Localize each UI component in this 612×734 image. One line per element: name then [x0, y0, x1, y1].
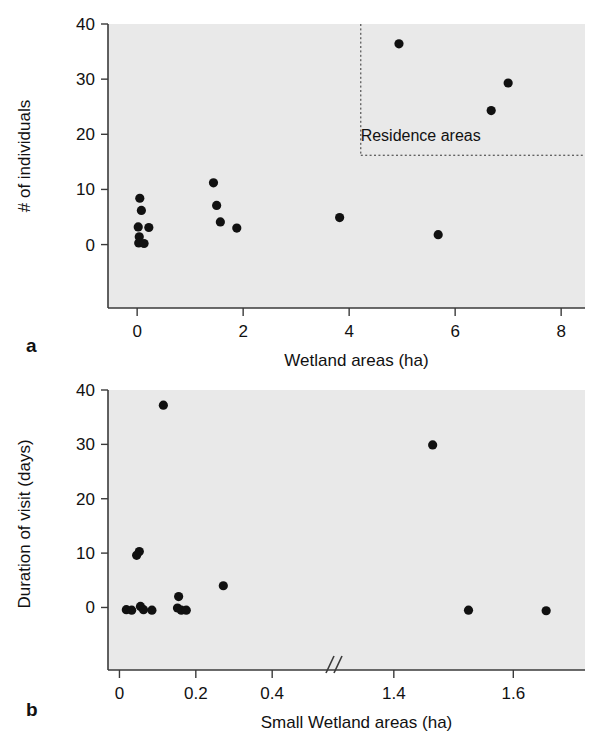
x-tick-label-b: 1.4: [382, 684, 406, 703]
data-point: [159, 401, 168, 410]
data-point: [134, 222, 143, 231]
data-point: [487, 106, 496, 115]
panel-letter-a: a: [26, 336, 37, 355]
data-point: [209, 178, 218, 187]
data-point: [132, 551, 141, 560]
data-point: [434, 230, 443, 239]
x-tick-label-b: 0: [115, 684, 124, 703]
panel-b: 01020304000.20.41.41.6Small Wetland area…: [0, 370, 612, 734]
panel-b-chart: 01020304000.20.41.41.6Small Wetland area…: [0, 370, 612, 734]
data-point: [504, 78, 513, 87]
y-tick-label-a: 40: [76, 15, 95, 34]
data-point: [212, 201, 221, 210]
y-axis-title-b: Duration of visit (days): [15, 439, 34, 608]
data-point: [139, 239, 148, 248]
data-point: [464, 606, 473, 615]
panel-a-chart: Residence areas01020304002468Wetland are…: [0, 0, 612, 370]
data-point: [428, 440, 437, 449]
data-point: [335, 213, 344, 222]
y-tick-label-a: 20: [76, 125, 95, 144]
x-tick-label-a: 6: [450, 322, 459, 341]
x-axis-title-a: Wetland areas (ha): [284, 351, 428, 370]
data-point: [394, 39, 403, 48]
residence-areas-label: Residence areas: [361, 127, 481, 144]
plot-area-background-b: [108, 390, 585, 670]
y-tick-label-b: 10: [76, 544, 95, 563]
x-tick-label-a: 4: [344, 322, 353, 341]
data-point: [139, 605, 148, 614]
y-tick-label-a: 10: [76, 180, 95, 199]
data-point: [232, 223, 241, 232]
x-tick-label-a: 2: [238, 322, 247, 341]
x-tick-label-b: 0.4: [260, 684, 284, 703]
data-point: [147, 606, 156, 615]
x-tick-label-b: 1.6: [501, 684, 525, 703]
y-tick-label-a: 30: [76, 70, 95, 89]
data-point: [182, 606, 191, 615]
x-tick-label-b: 0.2: [184, 684, 208, 703]
data-point: [219, 581, 228, 590]
y-tick-label-a: 0: [86, 236, 95, 255]
x-tick-label-a: 8: [556, 322, 565, 341]
data-point: [144, 223, 153, 232]
figure-container: Residence areas01020304002468Wetland are…: [0, 0, 612, 734]
data-point: [174, 592, 183, 601]
panel-a: Residence areas01020304002468Wetland are…: [0, 0, 612, 370]
panel-letter-b: b: [26, 700, 38, 719]
y-tick-label-b: 40: [76, 381, 95, 400]
data-point: [216, 217, 225, 226]
data-point: [127, 606, 136, 615]
data-point: [135, 194, 144, 203]
y-tick-label-b: 30: [76, 435, 95, 454]
data-point: [542, 606, 551, 615]
y-axis-title-a: # of individuals: [15, 100, 34, 212]
x-tick-label-a: 0: [132, 322, 141, 341]
plot-area-background-a: [108, 24, 585, 308]
y-tick-label-b: 20: [76, 490, 95, 509]
y-tick-label-b: 0: [86, 598, 95, 617]
data-point: [137, 206, 146, 215]
x-axis-title-b: Small Wetland areas (ha): [261, 713, 453, 732]
